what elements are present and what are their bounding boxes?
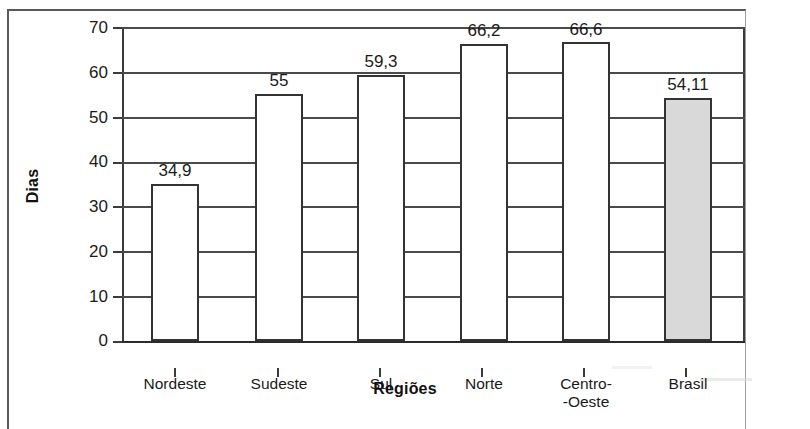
gridline-30 <box>122 206 745 208</box>
y-tick-label: 40 <box>89 153 108 170</box>
y-axis-tick-labels: 70 60 50 40 30 20 10 0 <box>0 0 108 341</box>
y-tick-mark-10 <box>113 296 122 298</box>
y-tick-label: 30 <box>89 198 108 215</box>
y-tick-mark-0 <box>113 341 122 343</box>
bar-sudeste[interactable] <box>255 94 303 341</box>
y-tick-mark-70 <box>113 27 122 29</box>
y-tick-label: 50 <box>89 109 108 126</box>
y-tick-mark-40 <box>113 162 122 164</box>
y-tick-label: 0 <box>99 332 108 349</box>
y-tick-label: 70 <box>89 19 108 36</box>
bar-value-brasil: 54,11 <box>648 76 728 93</box>
gridline-70 <box>122 27 745 29</box>
y-tick-mark-30 <box>113 206 122 208</box>
plot-frame <box>122 27 745 341</box>
bar-value-centro-oeste: 66,6 <box>546 21 626 38</box>
gridline-40 <box>122 162 745 164</box>
gridline-60 <box>122 72 745 74</box>
y-tick-mark-20 <box>113 251 122 253</box>
gridline-50 <box>122 117 745 119</box>
gridline-10 <box>122 296 745 298</box>
x-axis-title: Regiões <box>0 380 810 398</box>
y-tick-label: 20 <box>89 243 108 260</box>
scan-artifact <box>612 366 652 369</box>
y-tick-mark-60 <box>113 72 122 74</box>
bar-value-sudeste: 55 <box>239 72 319 89</box>
bar-centro-oeste[interactable] <box>562 42 610 341</box>
y-tick-label: 60 <box>89 64 108 81</box>
bar-value-sul: 59,3 <box>341 53 421 70</box>
bar-norte[interactable] <box>460 44 508 341</box>
y-tick-mark-50 <box>113 117 122 119</box>
bar-nordeste[interactable] <box>151 184 199 341</box>
gridline-20 <box>122 251 745 253</box>
x-axis-baseline <box>122 341 745 343</box>
bar-sul[interactable] <box>357 75 405 341</box>
bar-value-nordeste: 34,9 <box>135 162 215 179</box>
bar-value-norte: 66,2 <box>444 22 524 39</box>
plot-area: 34,9 55 59,3 66,2 66,6 54,11 Nordeste Su… <box>122 27 745 341</box>
y-tick-label: 10 <box>89 288 108 305</box>
bar-brasil[interactable] <box>664 98 712 341</box>
